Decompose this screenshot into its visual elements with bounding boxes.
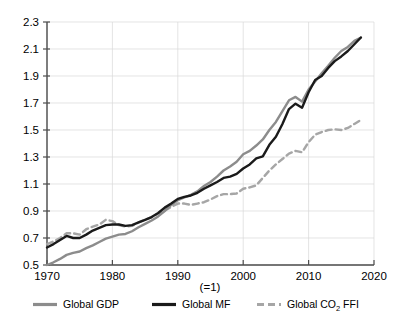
y-tick-label: 1.9	[23, 70, 39, 82]
x-tick-label: 1990	[165, 270, 191, 282]
x-tick-label: 2020	[361, 270, 387, 282]
y-tick-label: 2.3	[23, 16, 39, 28]
x-axis-ticks	[47, 260, 374, 265]
x-tick-label: 2010	[296, 270, 322, 282]
legend-label: Global CO2 FFI	[287, 298, 359, 313]
chart-container: 2.32.11.91.71.51.31.10.90.70.5 197019801…	[0, 0, 399, 330]
series-line-global-mf	[47, 38, 361, 248]
x-tick-label: 1970	[34, 270, 60, 282]
y-axis-labels: 2.32.11.91.71.51.31.10.90.70.5	[23, 16, 39, 271]
line-chart: 2.32.11.91.71.51.31.10.90.70.5 197019801…	[0, 0, 399, 330]
x-tick-label: 2000	[230, 270, 256, 282]
legend-label: Global GDP	[63, 298, 119, 310]
y-tick-label: 1.7	[23, 97, 39, 109]
series-lines	[47, 38, 361, 265]
x-tick-label: 1980	[100, 270, 126, 282]
y-tick-label: 1.5	[23, 124, 39, 136]
y-tick-label: 1.3	[23, 151, 39, 163]
series-line-global-co2-ffi	[47, 120, 361, 244]
index-note-label: (=1)	[200, 281, 221, 293]
y-tick-label: 0.7	[23, 232, 39, 244]
legend-label: Global MF	[182, 298, 230, 310]
y-tick-label: 1.1	[23, 178, 39, 190]
y-tick-label: 2.1	[23, 43, 39, 55]
y-tick-label: 0.9	[23, 205, 39, 217]
chart-legend: Global GDPGlobal MFGlobal CO2 FFI	[33, 298, 359, 313]
